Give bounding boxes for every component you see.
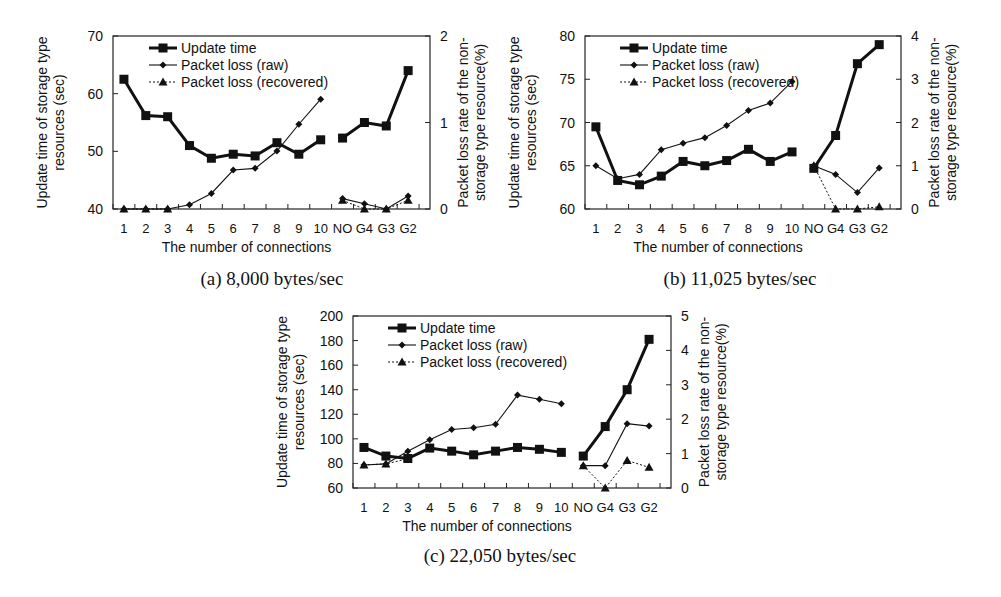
y2-tick-label: 4 xyxy=(911,28,919,44)
x-tick-label: 9 xyxy=(767,221,774,236)
data-point xyxy=(680,140,687,147)
y-tick-label: 180 xyxy=(320,333,344,349)
legend-marker xyxy=(398,324,407,333)
data-point xyxy=(766,157,775,166)
data-point xyxy=(679,157,688,166)
y2-tick-label: 3 xyxy=(911,71,919,87)
data-point xyxy=(645,463,654,471)
x-tick-label: NO xyxy=(333,221,353,236)
chart-panel-b: 12345678910NOG4G3G2The number of connect… xyxy=(500,0,1001,300)
x-tick-label: G2 xyxy=(871,221,888,236)
y-tick-label: 160 xyxy=(320,357,344,373)
y2-tick-label: 2 xyxy=(911,115,919,131)
x-axis: 12345678910NOG4G3G2The number of connect… xyxy=(353,483,660,534)
y-tick-label: 50 xyxy=(87,143,103,159)
y-axis-title-right: Packet loss rate of the non-storage type… xyxy=(926,37,959,208)
y2-tick-label: 5 xyxy=(681,308,689,324)
data-point xyxy=(186,201,193,208)
data-point xyxy=(623,456,632,464)
data-point xyxy=(251,151,260,160)
x-tick-label: 5 xyxy=(208,221,215,236)
x-tick-label: G2 xyxy=(399,221,416,236)
data-point xyxy=(491,447,500,456)
data-point xyxy=(404,66,413,75)
data-point xyxy=(788,147,797,156)
x-tick-label: 7 xyxy=(492,500,499,515)
x-tick-label: NO xyxy=(804,221,824,236)
data-point xyxy=(558,400,565,407)
y-axis-right: 012Packet loss rate of the non-storage t… xyxy=(425,28,488,217)
data-point xyxy=(645,335,654,344)
data-point xyxy=(361,200,368,207)
y-axis-title-right: Packet loss rate of the non-storage type… xyxy=(455,37,488,208)
y-tick-label: 60 xyxy=(87,86,103,102)
legend-label: Packet loss (raw) xyxy=(181,57,288,73)
y-axis-title-left: Update time of storage typeresources (se… xyxy=(506,36,539,208)
y2-tick-label: 0 xyxy=(440,201,448,217)
x-tick-label: 6 xyxy=(470,500,477,515)
x-tick-label: G3 xyxy=(618,500,635,515)
caption-c: (c) 22,050 bytes/sec xyxy=(375,545,625,567)
data-point xyxy=(360,118,369,127)
x-tick-label: G4 xyxy=(356,221,373,236)
data-point xyxy=(425,444,434,453)
data-point xyxy=(602,462,609,469)
data-point xyxy=(426,436,433,443)
x-axis-title: The number of connections xyxy=(633,239,803,255)
y-tick-label: 60 xyxy=(327,480,343,496)
x-tick-label: 1 xyxy=(592,221,599,236)
data-point xyxy=(557,448,566,457)
line-chart-c: 12345678910NOG4G3G2The number of connect… xyxy=(250,295,750,550)
x-tick-label: 1 xyxy=(360,500,367,515)
data-point xyxy=(403,454,412,463)
x-axis: 12345678910NOG4G3G2The number of connect… xyxy=(585,204,890,255)
x-tick-label: 3 xyxy=(636,221,643,236)
y2-tick-label: 1 xyxy=(681,446,689,462)
data-point xyxy=(657,172,666,181)
y-tick-label: 80 xyxy=(559,28,575,44)
y2-tick-label: 2 xyxy=(440,28,448,44)
line-chart-a: 12345678910NOG4G3G2The number of connect… xyxy=(0,0,500,270)
data-point xyxy=(119,75,128,84)
data-point xyxy=(381,452,390,461)
data-point xyxy=(447,447,456,456)
x-tick-label: 5 xyxy=(448,500,455,515)
y2-tick-label: 0 xyxy=(911,201,919,217)
x-tick-label: 7 xyxy=(723,221,730,236)
data-point xyxy=(359,443,368,452)
data-point xyxy=(185,141,194,150)
y-axis-left: 40506070Update time of storage typeresou… xyxy=(34,28,118,217)
x-tick-label: 8 xyxy=(745,221,752,236)
legend-label: Update time xyxy=(181,40,257,56)
y-axis-title-left: Update time of storage typeresources (se… xyxy=(274,316,307,488)
data-point xyxy=(723,122,730,129)
x-tick-label: 9 xyxy=(536,500,543,515)
y2-tick-label: 4 xyxy=(681,342,689,358)
data-point xyxy=(592,162,599,169)
data-point xyxy=(875,40,884,49)
data-point xyxy=(338,134,347,143)
x-tick-label: 10 xyxy=(785,221,799,236)
data-point xyxy=(635,180,644,189)
data-point xyxy=(646,423,653,430)
data-point xyxy=(294,150,303,159)
x-tick-label: G3 xyxy=(378,221,395,236)
data-point xyxy=(853,59,862,68)
data-point xyxy=(469,450,478,459)
x-tick-label: 6 xyxy=(230,221,237,236)
x-tick-label: G2 xyxy=(640,500,657,515)
y2-tick-label: 2 xyxy=(681,411,689,427)
x-tick-label: 4 xyxy=(186,221,193,236)
x-tick-label: 8 xyxy=(514,500,521,515)
y2-tick-label: 3 xyxy=(681,377,689,393)
legend-label: Update time xyxy=(652,40,728,56)
x-tick-label: G4 xyxy=(827,221,844,236)
data-point xyxy=(809,164,818,173)
data-point xyxy=(624,420,631,427)
data-point xyxy=(513,443,522,452)
data-point xyxy=(700,161,709,170)
data-point xyxy=(613,176,622,185)
x-tick-label: G3 xyxy=(849,221,866,236)
legend-label: Packet loss (recovered) xyxy=(652,74,799,90)
data-point xyxy=(448,426,455,433)
